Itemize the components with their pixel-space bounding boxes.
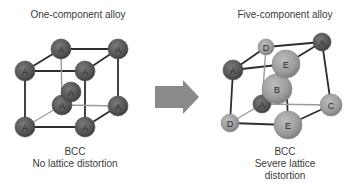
svg-text:A: A <box>68 88 74 98</box>
right-atom-btl-D: D <box>258 39 274 55</box>
left-atom-ftl-A: A <box>15 61 35 81</box>
left-caption: BCC No lattice distortion <box>20 146 130 170</box>
svg-text:B: B <box>274 85 280 95</box>
right-cube-atoms: DAACBAEDE <box>221 33 342 139</box>
svg-text:A: A <box>22 67 28 77</box>
svg-text:A: A <box>319 38 325 48</box>
right-atom-bbr-C: C <box>320 94 342 116</box>
left-atom-center-A: A <box>61 82 81 102</box>
svg-text:D: D <box>263 43 270 53</box>
right-caption-description-2: distortion <box>235 170 335 182</box>
left-atom-fbl-A: A <box>15 117 35 137</box>
svg-text:A: A <box>58 45 64 55</box>
left-atom-fbr-A: A <box>75 117 95 137</box>
right-caption: BCC Severe lattice distortion <box>235 146 335 182</box>
svg-text:A: A <box>230 66 236 76</box>
right-atom-ftr-E: E <box>272 50 300 78</box>
right-atom-fbl-D: D <box>221 114 239 132</box>
svg-text:A: A <box>82 67 88 77</box>
left-atom-ftr-A: A <box>75 61 95 81</box>
left-atom-btr-A: A <box>108 39 128 59</box>
right-atom-center-B: B <box>262 74 292 104</box>
arrow-right-icon <box>155 80 199 114</box>
svg-text:A: A <box>82 123 88 133</box>
left-caption-description: No lattice distortion <box>20 158 130 170</box>
svg-text:E: E <box>283 60 289 70</box>
svg-text:E: E <box>285 121 291 131</box>
svg-text:A: A <box>115 102 121 112</box>
svg-text:D: D <box>227 119 234 129</box>
right-atom-btr-A: A <box>313 33 331 51</box>
left-caption-structure: BCC <box>20 146 130 158</box>
left-atom-bbr-A: A <box>108 96 128 116</box>
svg-text:C: C <box>328 101 335 111</box>
left-cube-atoms: AAAAAAAAA <box>15 39 128 137</box>
right-caption-structure: BCC <box>235 146 335 158</box>
right-atom-fbr-E: E <box>274 111 302 139</box>
svg-text:A: A <box>259 100 265 110</box>
svg-text:A: A <box>22 123 28 133</box>
svg-text:A: A <box>115 45 121 55</box>
svg-text:A: A <box>59 101 65 111</box>
right-atom-ftl-A: A <box>223 60 243 80</box>
left-atom-btl-A: A <box>51 39 71 59</box>
right-caption-description-1: Severe lattice <box>235 158 335 170</box>
